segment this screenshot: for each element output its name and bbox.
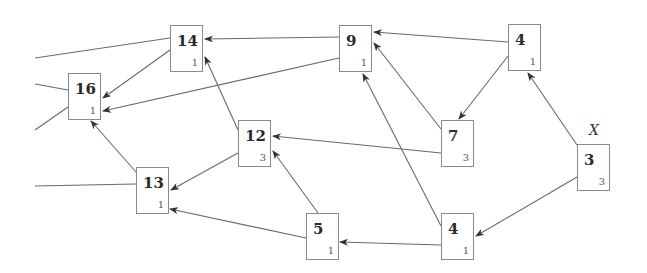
edge-n7-n12 [273,136,441,153]
node-label: 9 [346,32,356,50]
x-label: X [589,122,599,138]
node-weight: 1 [158,199,164,210]
edge-n3-n4b [476,177,577,236]
node-label: 7 [448,127,458,145]
node-weight: 1 [361,57,367,68]
node-weight: 3 [599,176,605,187]
node-label: 16 [75,80,96,98]
node-label: 3 [584,151,594,169]
edge-n4b-n9 [363,74,441,226]
node-weight: 1 [328,245,334,256]
node-weight: 1 [530,56,536,67]
edge-n9-n14 [205,37,339,39]
node-label: 14 [177,32,198,50]
node-n14: 141 [170,25,203,72]
node-label: 13 [143,174,164,192]
edge-n13-n16 [91,121,136,172]
edge-n14-n16 [103,50,170,98]
node-label: 5 [313,220,323,238]
node-n5: 51 [306,213,339,260]
edge-n4a-n9 [374,32,508,42]
node-n12: 123 [238,120,271,167]
node-weight: 1 [90,105,96,116]
node-weight: 3 [463,152,469,163]
edge-n12-n13 [171,153,238,190]
edge-n4a-n7 [459,56,508,119]
edge-ext-n13 [35,184,136,186]
node-n7: 73 [441,120,474,167]
edge-n4b-n5 [340,242,441,245]
node-n9: 91 [339,25,372,72]
edge-n5-n13 [170,209,306,238]
node-weight: 1 [463,245,469,256]
node-label: 12 [245,127,266,145]
edge-n3-n4a [528,73,577,145]
edge-ext-n14 [35,38,170,58]
node-n16: 161 [68,73,101,120]
node-n13: 131 [136,167,169,214]
node-n4b: 41 [441,213,474,260]
edge-n12-n14 [205,57,238,130]
node-weight: 1 [192,57,198,68]
node-label: 4 [448,220,458,238]
edge-n9-n16 [103,58,339,111]
node-label: 4 [515,31,525,49]
node-n3: 33 [577,144,610,191]
edge-ext-n16 [35,84,68,90]
node-n4a: 41 [508,24,541,71]
edge-ext-n16 [35,107,68,130]
edge-n5-n12 [273,151,318,213]
node-weight: 3 [260,152,266,163]
